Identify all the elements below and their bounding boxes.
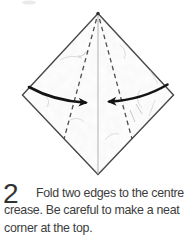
step-number: 2 — [3, 182, 18, 206]
caption-line-3: corner at the top. — [0, 220, 193, 237]
step-caption: 2 Fold two edges to the centre crease. B… — [0, 180, 193, 237]
origami-step-diagram — [0, 0, 193, 180]
paper-smudge — [22, 1, 36, 5]
origami-diagram-svg — [0, 0, 193, 180]
caption-line-2: crease. Be careful to make a neat — [0, 202, 193, 219]
origami-instruction-page: { "caption": { "step_number": "2", "line… — [0, 0, 193, 239]
caption-line-1: Fold two edges to the centre — [0, 180, 193, 202]
apex-corner-dot — [96, 12, 99, 15]
